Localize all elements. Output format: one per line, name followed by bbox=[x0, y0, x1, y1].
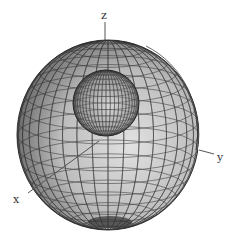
z-axis-label: z bbox=[101, 9, 107, 22]
y-axis-label: y bbox=[216, 151, 224, 164]
sphere-diagram: z x y bbox=[0, 0, 238, 248]
x-axis-label: x bbox=[13, 193, 20, 206]
y-axis bbox=[199, 150, 214, 154]
inner-sphere bbox=[73, 69, 139, 136]
